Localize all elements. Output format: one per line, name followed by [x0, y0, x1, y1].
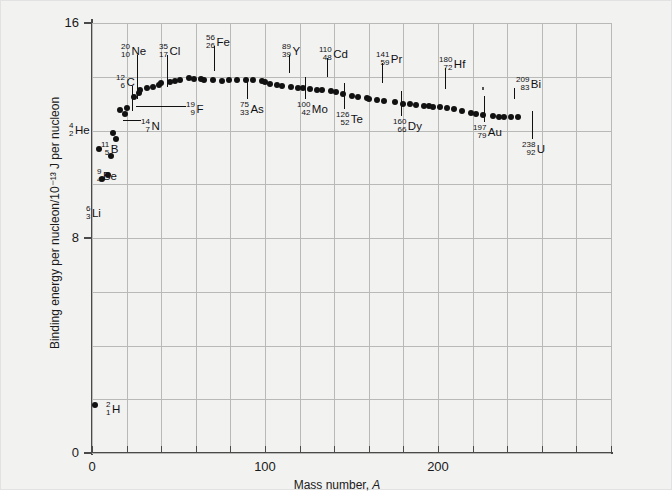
isotope-symbol: Pr [391, 54, 403, 66]
data-point [444, 105, 450, 111]
x-axis-tick-label: 200 [418, 459, 458, 474]
data-point [501, 114, 507, 120]
x-axis-tick [473, 446, 474, 453]
isotope-symbol: Hf [454, 59, 466, 71]
isotope-nuclide-numbers: 12652 [336, 111, 349, 128]
isotope-symbol: Bi [531, 79, 541, 91]
isotope-atomic-number: 48 [319, 54, 332, 62]
isotope-label-cl: 3517Cl [159, 43, 180, 60]
isotope-atomic-number: 42 [297, 109, 310, 117]
annotation-leader-line [401, 91, 402, 116]
isotope-symbol: Fe [216, 37, 229, 49]
isotope-nuclide-numbers: 147 [141, 118, 150, 135]
y-axis-tick [84, 22, 92, 24]
isotope-symbol: As [250, 104, 263, 116]
isotope-nuclide-numbers: 94 [97, 168, 101, 185]
x-axis-tick [576, 446, 577, 453]
data-point [480, 112, 486, 118]
data-point [288, 84, 294, 90]
isotope-label-te: 12652Te [336, 111, 363, 128]
isotope-atomic-number: 52 [336, 119, 349, 127]
data-point [349, 93, 355, 99]
y-axis-label: Binding energy per nucleon/10⁻¹³ J per n… [48, 23, 62, 423]
isotope-symbol: Dy [408, 121, 422, 133]
isotope-nuclide-numbers: 10042 [297, 101, 310, 118]
x-axis-tick [196, 446, 197, 453]
data-point [430, 104, 436, 110]
isotope-label-pr: 14159Pr [376, 51, 402, 68]
isotope-nuclide-numbers: 16066 [393, 118, 406, 135]
isotope-atomic-number: 9 [186, 109, 195, 117]
isotope-atomic-number: 10 [121, 51, 130, 59]
x-axis-tick-label: 0 [72, 459, 112, 474]
annotation-leader-line [344, 83, 345, 109]
isotope-label-as: 7533As [240, 101, 264, 118]
isotope-symbol: Cl [169, 46, 180, 58]
x-axis-tick [161, 446, 162, 453]
annotation-leader-line [123, 120, 141, 121]
gridline-vertical [611, 23, 612, 453]
print-speck [482, 87, 484, 90]
data-point [508, 114, 514, 120]
isotope-atomic-number: 5 [101, 149, 109, 157]
data-point [243, 77, 249, 83]
y-axis-tick-label: 0 [49, 445, 79, 460]
isotope-nuclide-numbers: 7533 [240, 101, 249, 118]
isotope-label-ne: 2010Ne [121, 43, 146, 60]
x-axis-tick [127, 446, 128, 453]
isotope-nuclide-numbers: 42 [69, 122, 73, 139]
isotope-label-n: 147N [141, 118, 160, 135]
isotope-nuclide-numbers: 126 [116, 74, 125, 91]
isotope-symbol: H [112, 404, 120, 416]
isotope-label-f: 199F [186, 101, 203, 118]
annotation-leader-line [167, 55, 168, 87]
gridline-horizontal [92, 399, 611, 400]
y-axis-tick [84, 237, 92, 239]
annotation-leader-line [327, 58, 328, 77]
isotope-label-dy: 16066Dy [393, 118, 422, 135]
isotope-nuclide-numbers: 199 [186, 101, 195, 118]
isotope-label-li: 63Li [86, 205, 101, 222]
isotope-symbol: Cd [333, 49, 348, 61]
isotope-symbol: B [111, 144, 119, 156]
data-point [124, 105, 130, 111]
y-axis-tick-label: 16 [49, 15, 79, 30]
isotope-symbol: U [537, 144, 545, 156]
x-axis-tick [542, 446, 543, 453]
isotope-nuclide-numbers: 2010 [121, 43, 130, 60]
x-axis-tick [265, 446, 266, 453]
data-point [515, 114, 521, 120]
gridline-horizontal [92, 346, 611, 347]
data-point [366, 96, 372, 102]
isotope-symbol: Y [292, 46, 300, 58]
isotope-label-he: 42He [69, 122, 90, 139]
x-axis-tick [438, 446, 439, 453]
x-axis-tick-label: 100 [245, 459, 285, 474]
isotope-atomic-number: 66 [393, 126, 406, 134]
x-axis-tick [369, 446, 370, 453]
isotope-label-u: 23892U [522, 141, 545, 158]
isotope-label-cd: 11048Cd [319, 46, 348, 63]
isotope-label-b: 115B [101, 141, 118, 158]
isotope-symbol: Mo [312, 104, 328, 116]
data-point [307, 86, 313, 92]
isotope-nuclide-numbers: 19779 [473, 124, 486, 141]
isotope-label-au: 19779Au [473, 124, 502, 141]
annotation-leader-line [305, 77, 306, 99]
isotope-nuclide-numbers: 11048 [319, 46, 332, 63]
annotation-leader-line [289, 55, 290, 73]
data-point [451, 106, 457, 112]
x-axis-tick [300, 446, 301, 453]
isotope-atomic-number: 7 [141, 126, 150, 134]
isotope-atomic-number: 3 [86, 213, 90, 221]
annotation-leader-line [136, 106, 186, 107]
isotope-label-h: 21H [106, 401, 120, 418]
x-axis-tick [403, 446, 404, 453]
gridline-horizontal [92, 292, 611, 293]
isotope-atomic-number: 4 [97, 176, 101, 184]
data-point [226, 77, 232, 83]
isotope-atomic-number: 6 [116, 82, 125, 90]
data-point [150, 84, 156, 90]
gridline-horizontal [92, 131, 611, 132]
isotope-atomic-number: 79 [473, 132, 486, 140]
